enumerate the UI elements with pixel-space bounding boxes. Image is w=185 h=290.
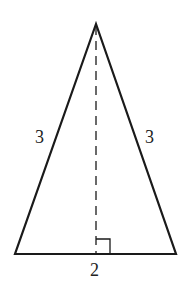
triangle-diagram: 3 3 2 (0, 0, 185, 290)
left-side-label: 3 (35, 127, 44, 147)
right-angle-marker (96, 239, 110, 254)
base-label: 2 (90, 260, 99, 280)
right-side-label: 3 (145, 127, 154, 147)
